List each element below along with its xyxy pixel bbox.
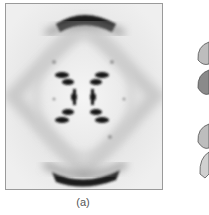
diffraction-image bbox=[5, 3, 163, 190]
figure-caption: (a) bbox=[73, 196, 93, 208]
helix-illustration bbox=[195, 40, 209, 190]
